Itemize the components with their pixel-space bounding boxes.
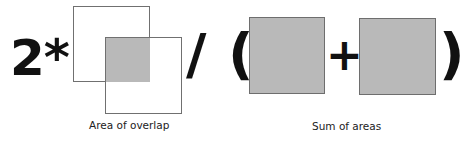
overlap-caption: Area of overlap — [89, 119, 169, 131]
area-box-a — [249, 17, 325, 94]
close-paren: ) — [439, 26, 465, 82]
sum-caption: Sum of areas — [312, 120, 381, 132]
area-box-b — [359, 18, 436, 95]
plus-symbol: + — [326, 33, 363, 77]
multiplier-label: 2* — [10, 33, 69, 83]
divide-symbol: / — [186, 26, 206, 82]
box-b-outline — [105, 37, 182, 114]
